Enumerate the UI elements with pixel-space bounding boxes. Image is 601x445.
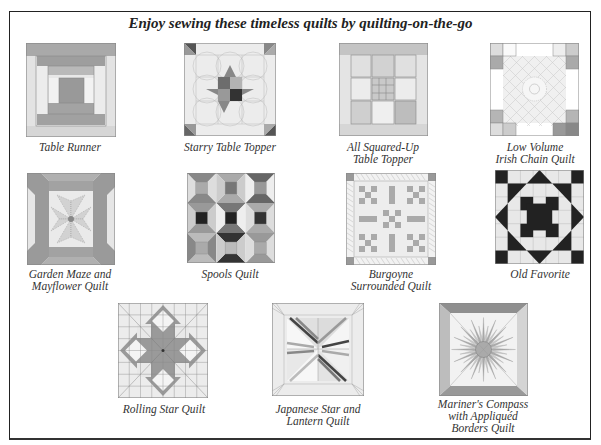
quilt-caption: Low Volume Irish Chain Quilt	[465, 141, 601, 165]
caption-line: Garden Maze and	[0, 268, 140, 280]
quilt-caption: Starry Table Topper	[160, 141, 300, 153]
caption-line: Japanese Star and	[248, 403, 388, 415]
quilt-starry-table-topper	[184, 43, 276, 136]
quilt-caption: Burgoyne Surrounded Quilt	[321, 268, 461, 292]
quilt-rolling-star	[118, 303, 208, 398]
quilt-low-volume	[490, 43, 579, 136]
quilt-caption: Old Favorite	[470, 268, 601, 280]
caption-line: Old Favorite	[470, 268, 601, 280]
caption-line: with Appliquéd	[413, 410, 553, 422]
quilt-garden-maze	[27, 173, 115, 265]
caption-line: Mayflower Quilt	[0, 280, 140, 292]
caption-line: All Squared-Up	[313, 141, 453, 153]
caption-line: Starry Table Topper	[160, 141, 300, 153]
caption-line: Surrounded Quilt	[321, 280, 461, 292]
caption-line: Irish Chain Quilt	[465, 153, 601, 165]
caption-line: Burgoyne	[321, 268, 461, 280]
quilt-caption: Rolling Star Quilt	[94, 403, 234, 415]
quilt-table-runner	[26, 43, 116, 137]
quilt-all-squared-up	[339, 43, 428, 136]
caption-line: Borders Quilt	[413, 422, 553, 434]
quilt-caption: Japanese Star and Lantern Quilt	[248, 403, 388, 427]
quilt-spools	[187, 173, 275, 263]
quilt-caption: Table Runner	[0, 141, 140, 153]
caption-line: Lantern Quilt	[248, 415, 388, 427]
caption-line: Spools Quilt	[160, 268, 300, 280]
quilt-burgoyne	[346, 173, 436, 265]
caption-line: Low Volume	[465, 141, 601, 153]
quilt-caption: Garden Maze and Mayflower Quilt	[0, 268, 140, 292]
caption-line: Table Runner	[0, 141, 140, 153]
quilt-caption: All Squared-Up Table Topper	[313, 141, 453, 165]
page-title: Enjoy sewing these timeless quilts by qu…	[0, 15, 601, 32]
quilt-caption: Spools Quilt	[160, 268, 300, 280]
caption-line: Rolling Star Quilt	[94, 403, 234, 415]
quilt-old-favorite	[495, 170, 584, 264]
quilt-japanese-star	[272, 303, 364, 396]
caption-line: Mariner's Compass	[413, 398, 553, 410]
quilt-caption: Mariner's Compass with Appliquéd Borders…	[413, 398, 553, 434]
caption-line: Table Topper	[313, 153, 453, 165]
quilt-mariners-compass	[439, 303, 528, 396]
